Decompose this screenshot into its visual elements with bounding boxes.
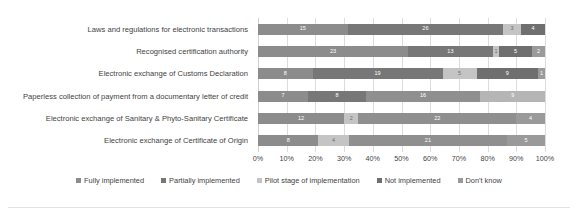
stacked-bar: 2313152 — [258, 46, 545, 57]
bar-segment: 5 — [443, 68, 477, 79]
bar-row: 84215 — [258, 130, 545, 152]
legend-item[interactable]: Pilot stage of implementation — [257, 176, 360, 185]
bar-segment: 9 — [477, 68, 539, 79]
segment-value-label: 2 — [537, 49, 540, 55]
segment-value-label: 4 — [532, 26, 535, 32]
chart-legend: Fully implementedPartially implementedPi… — [0, 176, 578, 185]
segment-value-label: 9 — [511, 93, 514, 99]
segment-value-label: 26 — [422, 26, 428, 32]
legend-label: Not implemented — [385, 176, 441, 185]
x-tick-label: 80% — [480, 154, 494, 163]
segment-value-label: 21 — [425, 138, 431, 144]
bar-segment: 1 — [538, 68, 545, 79]
bar-row: 1526340 — [258, 18, 545, 40]
segment-value-label: 3 — [511, 26, 514, 32]
bar-segment: 21 — [349, 135, 508, 146]
segment-value-label: 5 — [458, 71, 461, 77]
segment-value-label: 1 — [540, 71, 543, 77]
legend-label: Pilot stage of implementation — [265, 176, 360, 185]
stacked-bar: 78169 — [258, 91, 545, 102]
legend-item[interactable]: Not implemented — [377, 176, 441, 185]
x-axis-ticks: 0%10%20%30%40%50%60%70%80%90%100% — [258, 152, 545, 166]
segment-value-label: 8 — [287, 138, 290, 144]
legend-item[interactable]: Fully implemented — [76, 176, 144, 185]
legend-swatch-icon — [257, 178, 262, 183]
stacked-bar: 84215 — [258, 135, 545, 146]
legend-swatch-icon — [161, 178, 166, 183]
legend-item[interactable]: Partially implemented — [161, 176, 240, 185]
segment-value-label: 16 — [420, 93, 426, 99]
bar-segment: 2 — [344, 113, 358, 124]
x-tick-label: 20% — [308, 154, 322, 163]
segment-value-label: 22 — [434, 116, 440, 122]
stacked-bar-chart: Laws and regulations for electronic tran… — [0, 0, 578, 219]
segment-value-label: 8 — [284, 71, 287, 77]
bar-segment: 8 — [308, 91, 365, 102]
legend-swatch-icon — [76, 178, 81, 183]
legend-swatch-icon — [458, 178, 463, 183]
bar-segment: 8 — [258, 68, 313, 79]
legend-item[interactable]: Don't know — [458, 176, 502, 185]
bar-row: 78169 — [258, 85, 545, 107]
category-label: Electronic exchange of Certificate of Or… — [0, 130, 252, 152]
bar-segment: 13 — [408, 46, 493, 57]
stacked-bar: 1526340 — [258, 24, 545, 35]
bar-row: 122224 — [258, 107, 545, 129]
bar-segment: 4 — [521, 24, 545, 35]
bar-segment: 8 — [258, 135, 318, 146]
x-tick-label: 60% — [423, 154, 437, 163]
bar-segment: 15 — [258, 24, 348, 35]
segment-value-label: 19 — [375, 71, 381, 77]
segment-value-label: 5 — [525, 138, 528, 144]
segment-value-label: 12 — [298, 116, 304, 122]
bar-rows: 152634023131528195917816912222484215 — [258, 18, 545, 152]
bar-segment: 9 — [480, 91, 545, 102]
segment-value-label: 15 — [300, 26, 306, 32]
x-tick-label: 0% — [253, 154, 263, 163]
x-tick-label: 40% — [366, 154, 380, 163]
x-tick-label: 30% — [337, 154, 351, 163]
segment-value-label: 9 — [506, 71, 509, 77]
legend-label: Partially implemented — [169, 176, 240, 185]
bar-segment: 4 — [516, 113, 545, 124]
stacked-bar: 122224 — [258, 113, 545, 124]
x-tick-label: 10% — [279, 154, 293, 163]
stacked-bar: 819591 — [258, 68, 545, 79]
bar-segment: 19 — [313, 68, 443, 79]
category-label: Electronic exchange of Customs Declarati… — [0, 63, 252, 85]
category-label: Laws and regulations for electronic tran… — [0, 18, 252, 40]
bar-segment: 5 — [507, 135, 545, 146]
bar-segment: 26 — [348, 24, 503, 35]
legend-label: Fully implemented — [84, 176, 144, 185]
category-label: Electronic exchange of Sanitary & Phyto-… — [0, 107, 252, 129]
x-tick-label: 70% — [452, 154, 466, 163]
segment-value-label: 5 — [514, 49, 517, 55]
bar-segment: 7 — [258, 91, 308, 102]
segment-value-label: 2 — [350, 116, 353, 122]
segment-value-label: 8 — [335, 93, 338, 99]
bar-segment: 16 — [366, 91, 481, 102]
segment-value-label: 4 — [332, 138, 335, 144]
segment-value-label: 23 — [330, 49, 336, 55]
category-axis-labels: Laws and regulations for electronic tran… — [0, 18, 252, 152]
legend-label: Don't know — [466, 176, 502, 185]
legend-swatch-icon — [377, 178, 382, 183]
footer-divider — [8, 207, 570, 208]
bar-segment: 4 — [318, 135, 348, 146]
bar-segment: 3 — [503, 24, 521, 35]
x-tick-label: 50% — [394, 154, 408, 163]
bar-segment: 12 — [258, 113, 344, 124]
gridline — [545, 18, 546, 152]
bar-segment: 23 — [258, 46, 408, 57]
bar-segment: 5 — [499, 46, 532, 57]
bar-row: 819591 — [258, 63, 545, 85]
segment-value-label: 4 — [529, 116, 532, 122]
x-tick-label: 90% — [509, 154, 523, 163]
category-label: Paperless collection of payment from a d… — [0, 85, 252, 107]
segment-value-label: 1 — [495, 49, 498, 55]
plot-area: 152634023131528195917816912222484215 — [258, 18, 545, 152]
bar-segment: 2 — [532, 46, 545, 57]
bar-segment: 22 — [358, 113, 516, 124]
segment-value-label: 13 — [447, 49, 453, 55]
x-tick-label: 100% — [536, 154, 554, 163]
